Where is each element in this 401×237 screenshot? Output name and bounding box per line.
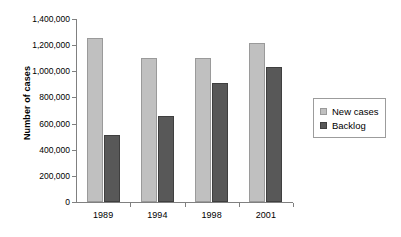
y-axis-tick-label: 0: [65, 197, 70, 207]
legend-swatch-icon: [320, 108, 327, 115]
bar-1994-new-cases: [141, 58, 157, 202]
y-axis-tick-label: 1,000,000: [32, 66, 70, 76]
y-axis-tick: [72, 202, 76, 203]
bar-1998-new-cases: [195, 58, 211, 202]
legend-item-new-cases: New cases: [320, 104, 378, 118]
y-axis-tick-label: 800,000: [39, 92, 70, 102]
y-axis-tick: [72, 176, 76, 177]
y-axis-tick-label: 200,000: [39, 171, 70, 181]
x-axis-tick-label: 2001: [256, 210, 276, 220]
legend-label: New cases: [332, 106, 378, 117]
y-axis-tick-label: 1,200,000: [32, 40, 70, 50]
y-axis-tick: [72, 150, 76, 151]
legend-label: Backlog: [332, 120, 366, 131]
x-axis-tick: [239, 203, 240, 207]
chart-legend: New casesBacklog: [313, 98, 386, 138]
y-axis-tick-label: 600,000: [39, 119, 70, 129]
bar-1989-new-cases: [87, 38, 103, 202]
x-axis-tick: [185, 203, 186, 207]
x-axis-tick-label: 1998: [202, 210, 222, 220]
bar-2001-new-cases: [249, 43, 265, 202]
y-axis-tick: [72, 124, 76, 125]
y-axis-tick-label: 400,000: [39, 145, 70, 155]
y-axis-tick: [72, 45, 76, 46]
bar-1998-backlog: [212, 83, 228, 202]
y-axis-tick: [72, 19, 76, 20]
x-axis-tick-label: 1994: [147, 210, 167, 220]
x-axis-tick-label: 1989: [93, 210, 113, 220]
x-axis-tick: [130, 203, 131, 207]
bar-chart: Number of cases 0200,000400,000600,00080…: [0, 0, 401, 237]
plot-area: 0200,000400,000600,000800,0001,000,0001,…: [76, 19, 293, 203]
y-axis-line: [76, 19, 77, 203]
y-axis-title: Number of cases: [22, 43, 32, 163]
bar-1994-backlog: [158, 116, 174, 202]
y-axis-tick: [72, 71, 76, 72]
x-axis-tick: [293, 203, 294, 207]
bar-2001-backlog: [266, 67, 282, 202]
legend-swatch-icon: [320, 122, 327, 129]
y-axis-tick-label: 1,400,000: [32, 14, 70, 24]
legend-item-backlog: Backlog: [320, 118, 378, 132]
bar-1989-backlog: [104, 135, 120, 202]
y-axis-tick: [72, 97, 76, 98]
